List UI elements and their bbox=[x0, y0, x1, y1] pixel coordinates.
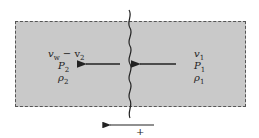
positive-direction-label: + bbox=[136, 126, 144, 137]
left-density-label: ρ2 bbox=[58, 72, 68, 88]
diagram-lines bbox=[0, 0, 259, 138]
wave-front-line bbox=[129, 10, 131, 118]
right-density-label: ρ1 bbox=[194, 72, 204, 88]
